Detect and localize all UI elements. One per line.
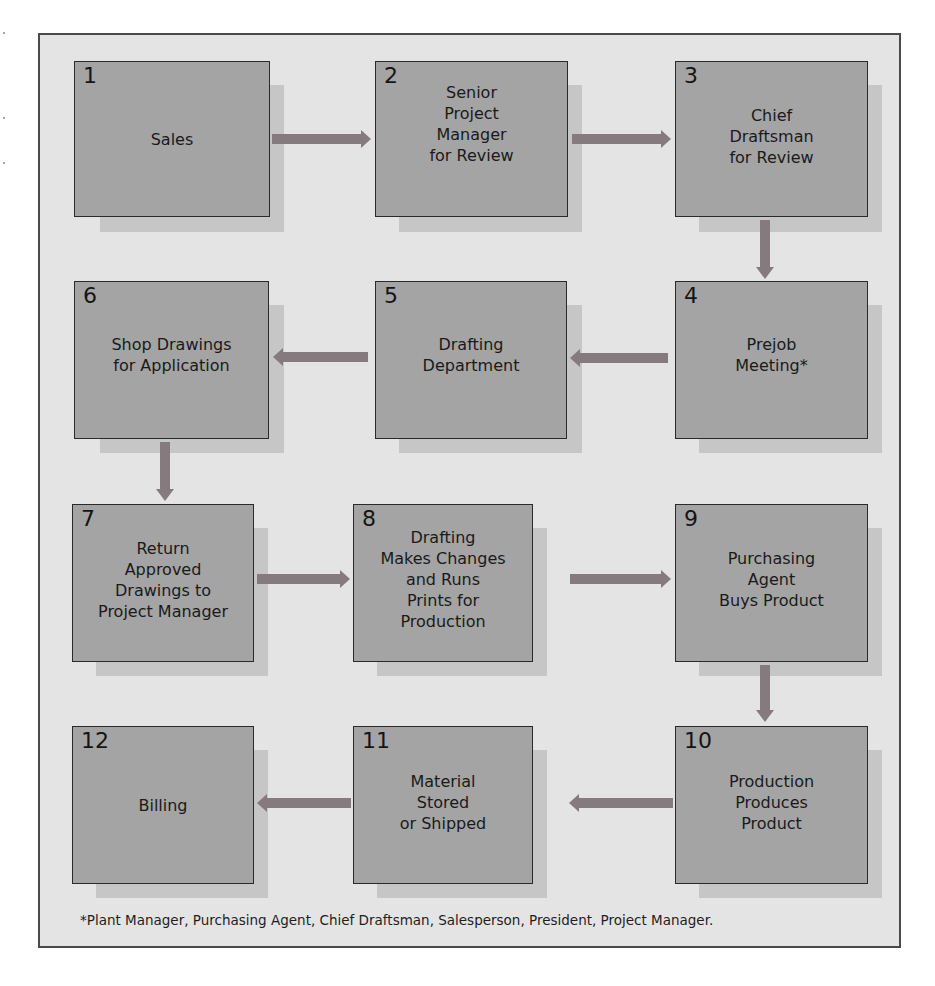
arrow-down-icon [755,220,775,280]
step-box: 1 Sales [74,61,270,217]
step-box: 10 Production Produces Product [675,726,868,884]
step-box: 4 Prejob Meeting* [675,281,868,439]
step-label: Prejob Meeting* [676,334,867,376]
step-number: 12 [81,730,109,752]
step-box: 8 Drafting Makes Changes and Runs Prints… [353,504,533,662]
step-label: Drafting Makes Changes and Runs Prints f… [354,527,532,632]
step-box: 2 Senior Project Manager for Review [375,61,568,217]
step-box: 7 Return Approved Drawings to Project Ma… [72,504,254,662]
arrow-down-icon [155,442,175,502]
print-mark [3,32,5,34]
step-label: Purchasing Agent Buys Product [676,548,867,611]
print-mark [3,162,5,164]
step-label: Return Approved Drawings to Project Mana… [73,538,253,622]
step-label: Sales [75,129,269,150]
footnote: *Plant Manager, Purchasing Agent, Chief … [80,912,713,928]
step-label: Drafting Department [376,334,566,376]
step-box: 5 Drafting Department [375,281,567,439]
print-mark [3,117,5,119]
step-box: 12 Billing [72,726,254,884]
step-label: Billing [73,795,253,816]
arrow-left-icon [570,348,668,368]
step-label: Senior Project Manager for Review [376,82,567,166]
step-label: Material Stored or Shipped [354,771,532,834]
step-number: 6 [83,285,97,307]
step-number: 5 [384,285,398,307]
step-label: Chief Draftsman for Review [676,105,867,168]
step-number: 3 [684,65,698,87]
step-number: 11 [362,730,390,752]
step-label: Shop Drawings for Application [75,334,268,376]
step-number: 7 [81,508,95,530]
step-number: 10 [684,730,712,752]
arrow-left-icon [569,793,673,813]
arrow-right-icon [572,129,672,149]
arrow-right-icon [570,569,672,589]
arrow-left-icon [257,793,351,813]
step-box: 6 Shop Drawings for Application [74,281,269,439]
step-label: Production Produces Product [676,771,867,834]
step-box: 11 Material Stored or Shipped [353,726,533,884]
step-number: 9 [684,508,698,530]
arrow-right-icon [272,129,372,149]
step-number: 4 [684,285,698,307]
step-box: 3 Chief Draftsman for Review [675,61,868,217]
arrow-right-icon [257,569,351,589]
step-number: 1 [83,65,97,87]
arrow-down-icon [755,665,775,723]
step-box: 9 Purchasing Agent Buys Product [675,504,868,662]
arrow-left-icon [273,347,368,367]
